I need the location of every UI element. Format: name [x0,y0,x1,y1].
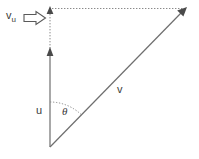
vector-diagram: vu u v θ [0,0,199,159]
block-arrow-right-icon-glyph [23,10,47,26]
angle-label: θ [62,106,67,117]
vector-u-arrowhead [47,47,54,56]
projection-label-subscript: u [12,15,16,24]
projection-label: vu [6,10,16,24]
block-arrow-right-icon [23,10,47,26]
vector-u-label: u [36,105,42,116]
vector-v-label: v [117,84,123,95]
projection-arrowhead [47,6,54,14]
vector-v-line [50,13,181,147]
